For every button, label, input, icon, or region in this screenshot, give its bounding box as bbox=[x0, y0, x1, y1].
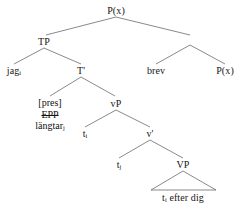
v-trace-index: j bbox=[120, 163, 122, 170]
node-tbar: T' bbox=[77, 65, 85, 76]
node-tbar-label: T' bbox=[77, 65, 85, 76]
node-right-px: P(x) bbox=[216, 65, 234, 76]
t-head-epp-feature: EPP bbox=[35, 109, 65, 121]
t-head-tense-feature: [pres] bbox=[35, 97, 65, 109]
t-head-verb-label: längtar bbox=[35, 120, 63, 131]
node-root-label: P(x) bbox=[107, 5, 125, 16]
node-big-vp-label: VP bbox=[177, 159, 190, 170]
node-vp-label: vP bbox=[111, 98, 122, 109]
triangle-content: ti efter dig bbox=[162, 192, 204, 205]
node-vp: vP bbox=[111, 98, 122, 109]
node-tp-label: TP bbox=[38, 36, 50, 47]
node-t-head-stack: [pres] EPP längtarj bbox=[35, 97, 65, 134]
node-subject-label: jag bbox=[7, 65, 20, 76]
node-object-label: brev bbox=[147, 65, 165, 76]
node-vbar-label: v' bbox=[146, 128, 153, 139]
node-subject-jag: jagi bbox=[7, 65, 21, 78]
node-v-trace: tj bbox=[117, 159, 122, 172]
triangle-trace-index: i bbox=[165, 196, 167, 203]
triangle-phrase-label: efter dig bbox=[169, 192, 204, 203]
node-object-brev: brev bbox=[147, 65, 165, 76]
node-right-px-label: P(x) bbox=[216, 65, 234, 76]
node-root-px: P(x) bbox=[107, 5, 125, 16]
node-big-vp: VP bbox=[177, 159, 190, 170]
syntax-tree-diagram: P(x) TP jagi T' brev P(x) [pres] EPP län… bbox=[0, 0, 244, 215]
node-subject-index: i bbox=[19, 69, 21, 76]
spec-vp-trace-index: i bbox=[86, 132, 88, 139]
node-vbar: v' bbox=[146, 128, 153, 139]
t-head-verb-index: j bbox=[63, 124, 65, 131]
node-spec-vp-trace: ti bbox=[83, 128, 88, 141]
t-head-verb: längtarj bbox=[35, 120, 65, 134]
node-tp: TP bbox=[38, 36, 50, 47]
